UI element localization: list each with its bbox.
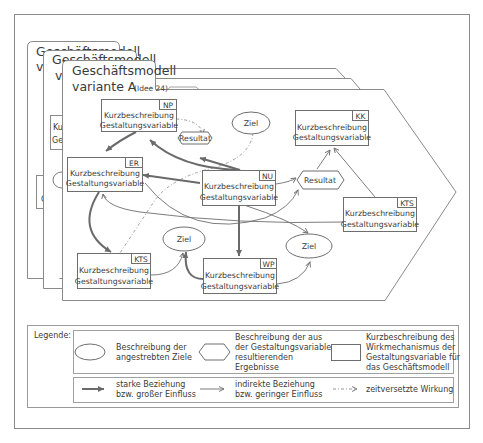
svg-text:Gestaltungsvariable: Gestaltungsvariable	[66, 179, 145, 188]
front-layer-subtitle: variante A	[72, 79, 137, 94]
svg-text:KK: KK	[356, 112, 367, 121]
layer-2-subtitle: v	[55, 68, 63, 83]
goal-ellipse-right: Ziel	[286, 234, 332, 258]
layer-1-subtitle: v	[36, 59, 44, 74]
svg-text:KTS: KTS	[134, 255, 148, 264]
legend-ellipse-icon	[75, 344, 105, 360]
svg-text:Gestaltungsvariable: Gestaltungsvariable	[201, 282, 280, 291]
svg-text:KTS: KTS	[400, 199, 414, 208]
variable-box-kk: KK Kurzbeschreibung Gestaltungsvariable	[293, 111, 372, 146]
svg-text:Ziel: Ziel	[177, 235, 191, 244]
svg-text:Resultat: Resultat	[179, 134, 211, 143]
svg-text:ER: ER	[129, 159, 139, 168]
legend-title: Legende:	[34, 331, 71, 340]
svg-text:Gestaltungsvariable: Gestaltungsvariable	[293, 133, 372, 142]
variable-box-wp: WP Kurzbeschreibung Gestaltungsvariable	[201, 259, 280, 294]
business-model-diagram: Geschäftsmodell v K G Geschäftsmodell v …	[0, 0, 483, 443]
legend-hexagon-icon	[199, 344, 230, 360]
svg-text:Resultat: Resultat	[304, 176, 336, 185]
legend-ellipse-label: Beschreibung der angestrebten Ziele	[116, 343, 192, 363]
legend-rectangle-label: Kurzbeschreibung des Wirkmechanismus der…	[366, 333, 460, 373]
front-layer-idea-tag: (Idee 24)	[134, 84, 168, 93]
svg-text:Gestaltungsvariable: Gestaltungsvariable	[341, 220, 420, 229]
variable-box-np: NP Kurzbeschreibung Gestaltungsvariable	[100, 100, 179, 132]
variable-box-kts-left: KTS Kurzbeschreibung Gestaltungsvariable	[75, 254, 154, 289]
svg-text:Ziel: Ziel	[244, 119, 258, 128]
result-hexagon-1: Resultat	[178, 132, 212, 144]
svg-text:Kurzbeschreibung: Kurzbeschreibung	[345, 209, 415, 218]
svg-text:Gestaltungsvariable: Gestaltungsvariable	[75, 277, 154, 286]
svg-text:Ku: Ku	[53, 123, 63, 132]
legend-strong-arrow-label: starke Beziehung bzw. großer Einfluss	[116, 380, 196, 400]
svg-text:WP: WP	[263, 260, 275, 269]
svg-text:NP: NP	[163, 101, 174, 110]
variable-box-kts-right: KTS Kurzbeschreibung Gestaltungsvariable	[341, 198, 420, 232]
svg-text:Ge: Ge	[52, 136, 63, 145]
front-layer-title: Geschäftsmodell	[72, 63, 176, 78]
svg-text:Kurzbeschreibung: Kurzbeschreibung	[205, 271, 275, 280]
result-hexagon-2: Resultat	[297, 171, 344, 189]
svg-text:Kurzbeschreibung: Kurzbeschreibung	[204, 182, 274, 191]
legend-thin-arrow-label: indirekte Beziehung bzw. geringer Einflu…	[235, 380, 322, 400]
legend-rectangle-icon	[332, 345, 361, 361]
svg-text:NU: NU	[262, 172, 273, 181]
svg-text:Kurzbeschreibung: Kurzbeschreibung	[70, 169, 140, 178]
variable-box-er: ER Kurzbeschreibung Gestaltungsvariable	[66, 158, 145, 192]
legend-dash-dot-arrow-label: zeitversetzte Wirkung	[366, 385, 453, 395]
goal-ellipse-top: Ziel	[232, 112, 270, 134]
variable-box-nu: NU Kurzbeschreibung Gestaltungsvariable	[200, 171, 279, 206]
svg-text:Kurzbeschreibung: Kurzbeschreibung	[79, 266, 149, 275]
svg-text:Gestaltungsvariable: Gestaltungsvariable	[100, 121, 179, 130]
svg-text:Kurzbeschreibung: Kurzbeschreibung	[297, 123, 367, 132]
goal-ellipse-left: Ziel	[163, 227, 205, 251]
svg-text:Ziel: Ziel	[302, 242, 316, 251]
svg-text:Kurzbeschreibung: Kurzbeschreibung	[104, 111, 174, 120]
svg-text:Gestaltungsvariable: Gestaltungsvariable	[200, 193, 279, 202]
legend-hexagon-label: Beschreibung der aus der Gestaltungsvari…	[235, 333, 331, 373]
